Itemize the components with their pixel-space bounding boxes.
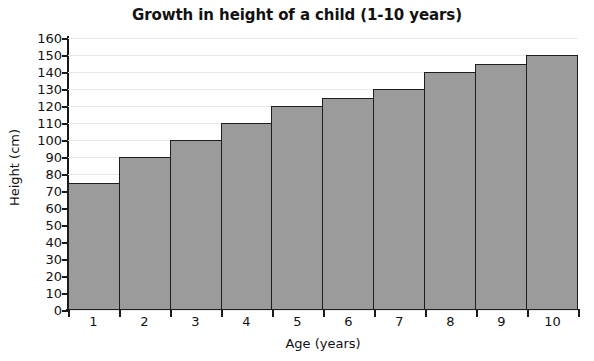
x-axis-tick-label: 7: [374, 314, 425, 329]
x-axis-title: Age (years): [68, 336, 578, 351]
x-axis-tick-mark: [425, 310, 427, 317]
x-axis-tick-label: 8: [425, 314, 476, 329]
bar: [424, 72, 476, 310]
x-axis-tick-mark: [374, 310, 376, 317]
x-axis-tick-label: 10: [527, 314, 578, 329]
x-axis-tick-label: 6: [323, 314, 374, 329]
x-axis-tick-mark: [476, 310, 478, 317]
bar: [271, 106, 323, 310]
x-axis-tick-label: 4: [221, 314, 272, 329]
bar: [68, 183, 120, 311]
x-axis-tick-label: 3: [170, 314, 221, 329]
bar: [475, 64, 527, 311]
bar: [119, 157, 171, 310]
y-axis-title: Height (cm): [7, 108, 22, 228]
bar: [373, 89, 425, 310]
bar: [221, 123, 273, 310]
x-axis-tick-mark: [272, 310, 274, 317]
bar-series: [68, 38, 578, 310]
x-axis-tick-mark: [527, 310, 529, 317]
x-axis-tick-mark: [221, 310, 223, 317]
plot-area: [68, 38, 578, 310]
x-axis-tick-mark: [578, 310, 580, 317]
x-axis-tick-mark: [68, 310, 70, 317]
bar-chart: Growth in height of a child (1-10 years)…: [0, 0, 594, 361]
x-axis-tick-mark: [170, 310, 172, 317]
x-axis-tick-label: 2: [119, 314, 170, 329]
bar: [170, 140, 222, 310]
x-axis-tick-mark: [119, 310, 121, 317]
x-axis-tick-label: 5: [272, 314, 323, 329]
bar: [322, 98, 374, 311]
x-axis-tick-mark: [323, 310, 325, 317]
x-axis-tick-label: 9: [476, 314, 527, 329]
bar: [526, 55, 578, 310]
chart-title: Growth in height of a child (1-10 years): [0, 6, 594, 24]
x-axis-tick-label: 1: [68, 314, 119, 329]
